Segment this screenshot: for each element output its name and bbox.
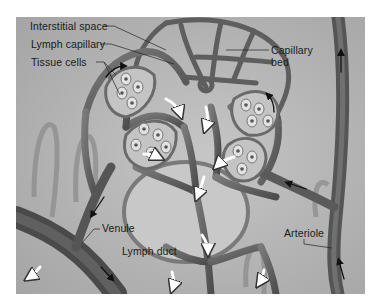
label-capillary-bed-line2: bed — [271, 57, 289, 68]
label-venule: Venule — [102, 223, 135, 234]
label-interstitial-space: Interstitial space — [30, 21, 108, 32]
white-arrow-icon — [206, 107, 208, 127]
label-arteriole: Arteriole — [284, 228, 324, 239]
label-lymph-capillary: Lymph capillary — [31, 39, 105, 50]
label-lymph-duct: Lymph duct — [122, 246, 177, 257]
label-tissue-cells: Tissue cells — [31, 57, 87, 68]
lymphatic-diagram: Interstitial space Lymph capillary Tissu… — [16, 17, 365, 294]
label-capillary-bed-line1: Capillary — [271, 45, 313, 56]
white-arrow-icon — [172, 272, 174, 287]
